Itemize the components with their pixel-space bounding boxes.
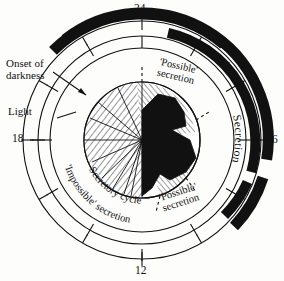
hour-label-12: 12 bbox=[135, 264, 147, 276]
light-label: Light bbox=[8, 106, 32, 118]
hour-label-6: 6 bbox=[272, 133, 278, 145]
hour-label-24: 24 bbox=[134, 2, 146, 14]
secretion-ring-label: Secretion bbox=[230, 114, 245, 165]
svg-text:Secretion: Secretion bbox=[230, 114, 245, 165]
figure-canvas: Activity Secretion 'Impossible' secretio… bbox=[0, 0, 284, 281]
onset-of-darkness-label: Onset of darkness bbox=[6, 58, 45, 81]
hour-label-18: 18 bbox=[12, 132, 24, 144]
polar-diagram-svg: Activity Secretion 'Impossible' secretio… bbox=[0, 0, 284, 281]
